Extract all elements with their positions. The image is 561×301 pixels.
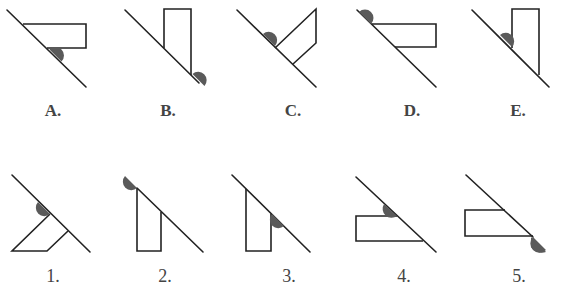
answer-label-1: 1.: [46, 266, 60, 287]
option-c-figure: [237, 9, 316, 87]
half-disc-icon: [36, 202, 50, 216]
rectangle-shape: [246, 189, 271, 251]
option-b-figure: [125, 9, 207, 86]
answer-label-4: 4.: [397, 266, 411, 287]
half-disc-icon: [263, 32, 277, 46]
option-label-a: A.: [45, 101, 62, 121]
rectangle-shape: [137, 188, 161, 251]
answer-4-figure: [356, 177, 436, 252]
rectangle-shape: [164, 9, 191, 75]
option-d-figure: [357, 10, 436, 87]
answer-label-3: 3.: [282, 266, 296, 287]
rectangle-shape: [465, 210, 533, 236]
half-disc-fill: [531, 237, 546, 253]
option-label-b: B.: [160, 101, 176, 121]
answer-label-2: 2.: [158, 266, 172, 287]
option-a-figure: [7, 10, 86, 87]
option-e-figure: [472, 9, 549, 87]
parallelogram-shape: [12, 214, 68, 251]
option-label-e: E.: [510, 101, 526, 121]
answer-5-figure: [465, 175, 546, 253]
half-disc-icon: [123, 176, 137, 190]
option-label-c: C.: [285, 101, 302, 121]
answer-label-5: 5.: [512, 266, 526, 287]
rectangle-shape: [512, 9, 539, 75]
answer-3-figure: [232, 175, 310, 252]
figure-canvas: [0, 0, 561, 301]
rectangle-shape: [356, 216, 423, 241]
half-disc-icon: [270, 214, 284, 228]
answer-1-figure: [12, 175, 90, 252]
parallelogram-shape: [275, 9, 316, 64]
rectangle-shape: [23, 24, 86, 48]
half-disc-icon: [359, 10, 373, 24]
rectangle-shape: [372, 24, 436, 47]
option-label-d: D.: [404, 101, 421, 121]
answer-2-figure: [123, 176, 203, 252]
